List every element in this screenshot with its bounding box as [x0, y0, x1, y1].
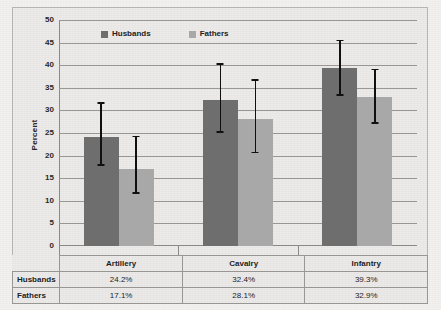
table-col-header-artillery: Artillery	[60, 256, 183, 272]
error-bar-cap-bottom	[252, 152, 259, 154]
table-cell-husbands-infantry: 39.3%	[305, 272, 428, 288]
y-axis-tick-label: 25	[45, 129, 54, 137]
table-cell-fathers-infantry: 32.9%	[305, 288, 428, 304]
legend-label-husbands: Husbands	[112, 30, 151, 38]
error-bar-husbands-infantry	[339, 40, 341, 96]
table-row-header-fathers: Fathers	[13, 288, 60, 304]
error-bar-fathers-infantry	[374, 69, 376, 124]
table-col-header-infantry: Infantry	[305, 256, 428, 272]
y-axis-tick-label: 10	[45, 197, 54, 205]
y-axis-tick-label: 0	[50, 242, 54, 250]
error-bar-cap-bottom	[133, 192, 140, 194]
gridline	[59, 88, 417, 89]
error-bar-cap-bottom	[371, 122, 378, 124]
error-bar-cap-bottom	[336, 94, 343, 96]
plot-area: 05101520253035404550	[59, 20, 417, 246]
y-axis-tick-label: 30	[45, 106, 54, 114]
y-axis-tick-label: 40	[45, 61, 54, 69]
error-bar-fathers-artillery	[135, 136, 137, 194]
table-col-header-cavalry: Cavalry	[182, 256, 305, 272]
gridline	[59, 246, 417, 247]
gridline	[59, 43, 417, 44]
table-row: Fathers 17.1% 28.1% 32.9%	[13, 288, 428, 304]
table-cell-fathers-cavalry: 28.1%	[182, 288, 305, 304]
y-axis-tick-label: 45	[45, 39, 54, 47]
y-axis-tick-label: 5	[50, 219, 54, 227]
legend-swatch-fathers	[189, 31, 196, 38]
gridline	[59, 65, 417, 66]
chart-figure: Percent 05101520253035404550 Husbands Fa…	[12, 7, 428, 262]
legend-item-fathers: Fathers	[189, 30, 229, 38]
y-axis-tick-label: 35	[45, 84, 54, 92]
table-row-header-husbands: Husbands	[13, 272, 60, 288]
error-bar-husbands-artillery	[100, 102, 102, 165]
error-bar-cap-top	[371, 69, 378, 71]
table-corner-cell	[13, 256, 60, 272]
legend-item-husbands: Husbands	[101, 30, 151, 38]
y-axis-title: Percent	[30, 119, 39, 150]
gridline	[59, 20, 417, 21]
legend-label-fathers: Fathers	[200, 30, 229, 38]
page-background: Percent 05101520253035404550 Husbands Fa…	[0, 0, 441, 310]
table-cell-fathers-artillery: 17.1%	[60, 288, 183, 304]
chart-legend: Husbands Fathers	[101, 30, 229, 38]
error-bar-cap-bottom	[217, 131, 224, 133]
legend-swatch-husbands	[101, 31, 108, 38]
y-axis-tick-label: 20	[45, 152, 54, 160]
y-axis-tick-label: 15	[45, 174, 54, 182]
table-row: Husbands 24.2% 32.4% 39.3%	[13, 272, 428, 288]
data-table: Artillery Cavalry Infantry Husbands 24.2…	[12, 255, 428, 304]
error-bar-fathers-cavalry	[255, 79, 257, 153]
error-bar-cap-top	[336, 40, 343, 42]
table-row-categories: Artillery Cavalry Infantry	[13, 256, 428, 272]
error-bar-cap-top	[217, 63, 224, 65]
error-bar-husbands-cavalry	[220, 63, 222, 133]
error-bar-cap-bottom	[98, 164, 105, 166]
error-bar-cap-top	[98, 102, 105, 104]
table-cell-husbands-artillery: 24.2%	[60, 272, 183, 288]
error-bar-cap-top	[252, 79, 259, 81]
y-axis-tick-label: 50	[45, 16, 54, 24]
error-bar-cap-top	[133, 136, 140, 138]
table-cell-husbands-cavalry: 32.4%	[182, 272, 305, 288]
